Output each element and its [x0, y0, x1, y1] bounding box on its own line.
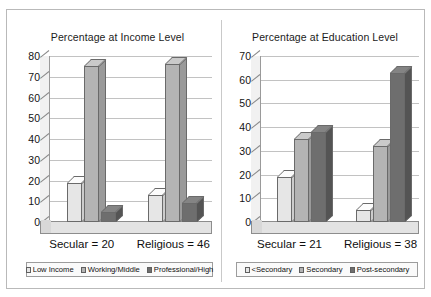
- legend-item[interactable]: Professional/High: [147, 265, 214, 274]
- bar-front-face: [311, 132, 326, 222]
- legend-label: <Secondary: [252, 265, 293, 274]
- y-axis-tick-label: 10: [239, 192, 261, 204]
- bar-front-face: [165, 64, 180, 222]
- education-chart-title: Percentage at Education Level: [222, 31, 428, 43]
- bar-front-face: [294, 139, 309, 222]
- bar: [373, 146, 388, 222]
- y-axis-tick-mark: [40, 175, 49, 183]
- y-axis-tick-label: 80: [28, 50, 50, 62]
- y-axis-tick-label: 70: [239, 50, 261, 62]
- bar-side-face: [405, 66, 412, 222]
- legend-label: Secondary: [306, 265, 342, 274]
- legend-label: Post-secondary: [357, 265, 410, 274]
- bar-front-face: [67, 183, 82, 222]
- legend-item[interactable]: Post-secondary: [350, 265, 410, 274]
- legend-label: Professional/High: [154, 265, 214, 274]
- bar-front-face: [373, 146, 388, 222]
- y-axis-tick-mark: [40, 92, 49, 100]
- bar: [390, 73, 405, 222]
- legend-item[interactable]: Secondary: [299, 265, 342, 274]
- category-label: Secular = 20: [36, 238, 128, 250]
- y-axis-tick-label: 40: [28, 133, 50, 145]
- bar-front-face: [84, 66, 99, 222]
- education-category-labels: Secular = 21Religious = 38: [244, 238, 426, 254]
- y-axis-tick-mark: [251, 145, 260, 153]
- legend-label: Low Income: [33, 265, 74, 274]
- y-axis-tick-label: 60: [239, 74, 261, 86]
- y-axis-tick-mark: [251, 192, 260, 200]
- bar-side-face: [99, 60, 106, 222]
- legend-item[interactable]: <Secondary: [245, 265, 293, 274]
- y-axis-tick-label: 50: [239, 97, 261, 109]
- education-legend: <SecondarySecondaryPost-secondary: [236, 262, 418, 277]
- y-axis-tick-mark: [251, 74, 260, 82]
- bar: [101, 212, 116, 222]
- education-floor: [251, 221, 419, 234]
- bar: [277, 177, 292, 222]
- education-chart-panel: Percentage at Education Level 0102030405…: [221, 20, 428, 282]
- figure-root: Percentage at Income Level 0102030405060…: [0, 0, 431, 297]
- legend-label: Working/Middle: [88, 265, 140, 274]
- bar-front-face: [277, 177, 292, 222]
- bar: [182, 203, 197, 222]
- bar: [356, 210, 371, 222]
- y-axis-tick-label: 60: [28, 92, 50, 104]
- income-legend: Low IncomeWorking/MiddleProfessional/Hig…: [26, 262, 213, 277]
- bar-front-face: [101, 212, 116, 222]
- legend-swatch: [81, 267, 86, 273]
- legend-item[interactable]: Working/Middle: [81, 265, 140, 274]
- y-axis-tick-label: 20: [239, 169, 261, 181]
- y-axis-tick-mark: [251, 50, 260, 58]
- y-axis-tick-label: 10: [28, 195, 50, 207]
- y-axis-tick-label: 40: [239, 121, 261, 133]
- bar-front-face: [148, 195, 163, 222]
- bar: [294, 139, 309, 222]
- bar-front-face: [182, 203, 197, 222]
- y-axis-tick-mark: [251, 121, 260, 129]
- bar-front-face: [390, 73, 405, 222]
- category-label: Religious = 38: [335, 238, 426, 250]
- education-plot-area: 010203040506070: [251, 56, 419, 234]
- income-category-labels: Secular = 20Religious = 46: [36, 238, 219, 254]
- income-chart-panel: Percentage at Income Level 0102030405060…: [14, 20, 221, 282]
- y-axis-tick-mark: [40, 112, 49, 120]
- legend-item[interactable]: Low Income: [26, 265, 74, 274]
- bar-front-face: [356, 210, 371, 222]
- y-axis-tick-mark: [251, 169, 260, 177]
- bar: [67, 183, 82, 222]
- bar: [84, 66, 99, 222]
- education-bars: [261, 56, 419, 222]
- y-axis-tick-mark: [40, 71, 49, 79]
- y-axis-tick-mark: [40, 154, 49, 162]
- legend-swatch: [245, 267, 250, 273]
- y-axis-tick-label: 30: [239, 145, 261, 157]
- income-chart-title: Percentage at Income Level: [14, 31, 221, 43]
- legend-swatch: [350, 267, 355, 273]
- y-axis-tick-label: 20: [28, 175, 50, 187]
- category-label: Religious = 46: [128, 238, 220, 250]
- y-axis-tick-mark: [40, 50, 49, 58]
- income-bars: [50, 56, 212, 222]
- y-axis-tick-mark: [251, 98, 260, 106]
- legend-swatch: [147, 267, 152, 273]
- legend-swatch: [299, 267, 304, 273]
- figure-frame: Percentage at Income Level 0102030405060…: [6, 9, 425, 289]
- bar: [148, 195, 163, 222]
- income-floor: [40, 221, 212, 234]
- y-axis-tick-mark: [40, 133, 49, 141]
- y-axis-tick-label: 30: [28, 154, 50, 166]
- y-axis-tick-label: 50: [28, 112, 50, 124]
- bar: [165, 64, 180, 222]
- income-plot-area: 01020304050607080: [40, 56, 212, 234]
- y-axis-tick-label: 70: [28, 71, 50, 83]
- legend-swatch: [26, 267, 31, 273]
- bar-side-face: [326, 125, 333, 222]
- y-axis-tick-mark: [40, 195, 49, 203]
- category-label: Secular = 21: [244, 238, 335, 250]
- bar: [311, 132, 326, 222]
